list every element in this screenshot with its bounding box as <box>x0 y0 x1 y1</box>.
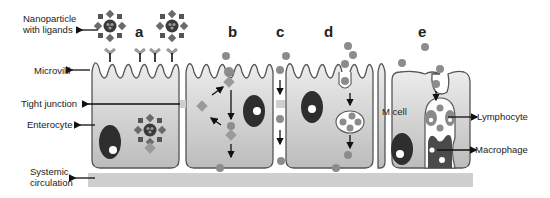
nucleus <box>391 133 413 165</box>
nanoparticle-icon <box>94 10 126 42</box>
panel-label-d: d <box>324 23 333 40</box>
label-circulation: circulation <box>30 177 73 188</box>
panel-label-a: a <box>135 23 144 40</box>
label-m-cell: M cell <box>382 106 407 117</box>
panel-label-e: e <box>418 23 426 40</box>
nanoparticle-icon <box>156 10 188 42</box>
label-macrophage: Macrophage <box>475 144 528 155</box>
panel-label-c: c <box>276 23 284 40</box>
panel-label-b: b <box>228 23 237 40</box>
nucleus <box>99 125 121 159</box>
label-nanoparticle-2: with ligands <box>22 24 73 35</box>
receptor-icon <box>135 49 145 62</box>
receptor-icon <box>150 49 160 62</box>
receptor-icon <box>105 49 115 62</box>
transport-diagram: Nanoparticle with ligands Microvilli Tig… <box>0 0 550 198</box>
label-tight-junction: Tight junction <box>21 98 77 109</box>
label-systemic: Systemic <box>30 166 69 177</box>
receptor-icon <box>167 49 177 62</box>
label-microvilli: Microvilli <box>34 65 70 76</box>
label-nanoparticle: Nanoparticle <box>23 13 76 24</box>
systemic-circulation-bar <box>88 173 473 187</box>
label-lymphocyte: Lymphocyte <box>477 111 528 122</box>
nanoparticle-icon <box>134 114 166 146</box>
label-enterocyte: Enterocyte <box>27 119 72 130</box>
